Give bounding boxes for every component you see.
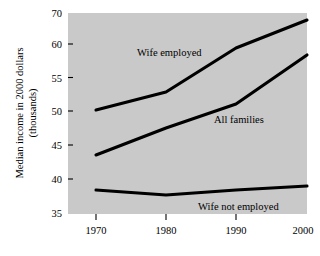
y-tick-label-55: 55 <box>52 73 63 84</box>
income-line-chart: 70 60 55 50 45 40 35 1970 1980 1990 2000… <box>0 0 320 256</box>
x-tick-label-1980: 1980 <box>156 225 177 236</box>
series-label-wife-employed: Wife employed <box>137 47 202 58</box>
series-label-wife-not-employed: Wife not employed <box>198 201 279 212</box>
y-tick-label-50: 50 <box>52 106 63 117</box>
plot-area-background <box>68 13 307 214</box>
y-axis-title: Median income in 2000 dollars (thousands… <box>14 47 39 178</box>
series-label-all-families: All families <box>214 114 264 125</box>
y-tick-label-40: 40 <box>52 174 63 185</box>
x-axis: 1970 1980 1990 2000 <box>86 214 314 236</box>
y-axis-title-line1: Median income in 2000 dollars <box>14 47 25 178</box>
y-tick-label-70: 70 <box>52 8 63 19</box>
x-tick-label-1990: 1990 <box>226 225 247 236</box>
x-tick-label-2000: 2000 <box>293 225 314 236</box>
y-tick-label-35: 35 <box>52 208 63 219</box>
y-axis-title-line2: (thousands) <box>27 88 39 137</box>
y-tick-label-45: 45 <box>52 140 63 151</box>
x-tick-label-1970: 1970 <box>86 225 107 236</box>
y-tick-label-60: 60 <box>52 39 63 50</box>
